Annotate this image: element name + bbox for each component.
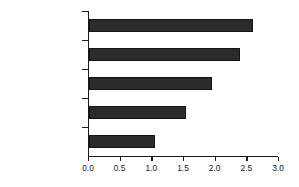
x-axis-tick-label: 3.0 xyxy=(263,163,293,173)
x-axis-tick xyxy=(120,157,121,161)
x-axis-tick-label: 2.0 xyxy=(200,163,230,173)
plot-area: South Asia East Asia and the Pacific Sub… xyxy=(0,0,299,187)
y-axis-tick xyxy=(82,11,88,12)
x-axis-tick xyxy=(246,157,247,161)
x-axis-tick xyxy=(183,157,184,161)
y-axis-tick xyxy=(82,69,88,70)
x-axis-tick-label: 1.5 xyxy=(168,163,198,173)
bar xyxy=(89,48,240,61)
bar xyxy=(89,77,212,90)
x-axis-tick-label: 1.0 xyxy=(136,163,166,173)
x-axis-tick xyxy=(151,157,152,161)
y-axis-tick xyxy=(82,40,88,41)
x-axis-tick-label: 2.5 xyxy=(231,163,261,173)
bar xyxy=(89,135,155,148)
bar-chart: South Asia East Asia and the Pacific Sub… xyxy=(0,0,299,187)
x-axis-tick-label: 0.0 xyxy=(73,163,103,173)
bar xyxy=(89,19,253,32)
y-axis-tick xyxy=(82,127,88,128)
x-axis-tick xyxy=(215,157,216,161)
x-axis-tick xyxy=(88,157,89,161)
x-axis-tick-label: 0.5 xyxy=(105,163,135,173)
bar xyxy=(89,106,186,119)
x-axis-tick xyxy=(278,157,279,161)
y-axis-tick xyxy=(82,98,88,99)
